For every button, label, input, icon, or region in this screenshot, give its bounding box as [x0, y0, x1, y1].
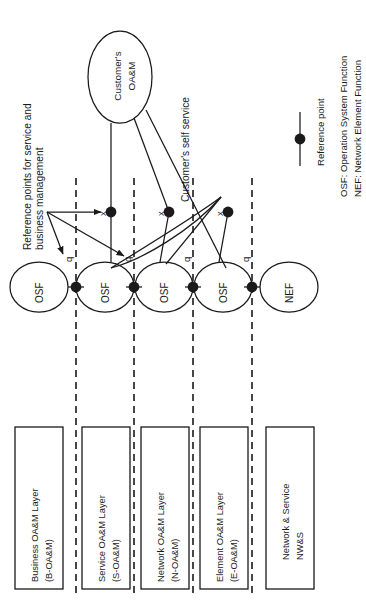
- q-reference-label-4: q: [240, 257, 252, 262]
- q-reference-dot-1: [71, 282, 82, 293]
- layer-label-3-line2: (N-OA&M): [170, 539, 182, 582]
- diagram-vector-layer: [0, 0, 366, 609]
- function-node-label-4: OSF: [218, 282, 230, 303]
- q-reference-label-2: q: [122, 257, 134, 262]
- service-business-note: Reference points for service and busines…: [22, 103, 47, 250]
- q-reference-dot-3: [188, 282, 199, 293]
- layer-label-1-line1: Business OA&M Layer: [30, 488, 42, 582]
- layer-label-1-line2: (B-OA&M): [44, 539, 56, 582]
- x-reference-label-1: x: [97, 211, 109, 216]
- customer-oam-label-line1: Customer's: [112, 40, 124, 112]
- layer-label-2-line1: Service OA&M Layer: [97, 495, 109, 582]
- x-reference-label-3: x: [214, 211, 226, 216]
- function-node-label-5: NEF: [284, 283, 296, 303]
- layer-label-5-line1: Network & Service: [281, 484, 293, 560]
- layer-label-2-line2: (S-OA&M): [111, 539, 123, 582]
- q-reference-label-1: q: [63, 257, 75, 262]
- q-reference-dot-2: [129, 282, 140, 293]
- customer-oam-label-line2: OA&M: [126, 40, 138, 112]
- function-node-label-1: OSF: [34, 282, 46, 303]
- function-node-label-2: OSF: [100, 282, 112, 303]
- layer-label-5-line2: NW&S: [295, 532, 307, 560]
- link-x3-to-osf4: [219, 212, 228, 262]
- x-reference-label-2: x: [155, 211, 167, 216]
- layer-label-4-line2: (E-OA&M): [229, 539, 241, 582]
- layer-label-3-line1: Network OA&M Layer: [156, 492, 168, 582]
- self-service-note: Customer's self service: [180, 97, 192, 202]
- legend-abbrev-osf: OSF: Operation System Function: [338, 56, 350, 197]
- legend-abbrev-nef: NEF: Network Element Function: [352, 60, 364, 197]
- leader-to-q2: [47, 212, 124, 256]
- note-leader-lines: [47, 212, 124, 256]
- leader-to-q1: [47, 212, 63, 254]
- link-customer-to-x2: [134, 118, 169, 212]
- layer-label-4-line1: Element OA&M Layer: [215, 492, 227, 582]
- legend-marker-label: Reference point: [315, 98, 327, 166]
- q-reference-dot-4: [247, 282, 258, 293]
- legend-reference-dot: [295, 134, 306, 145]
- q-reference-label-3: q: [181, 257, 193, 262]
- diagram-canvas: Reference points for service and busines…: [0, 0, 366, 609]
- function-node-label-3: OSF: [159, 282, 171, 303]
